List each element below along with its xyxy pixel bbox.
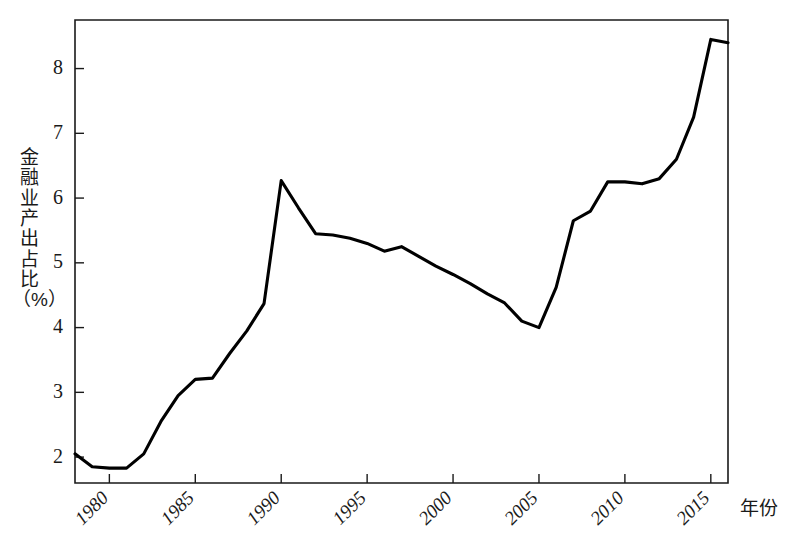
y-tick-label: 8 xyxy=(53,56,63,78)
x-tick-label: 2015 xyxy=(672,487,714,529)
axes-frame xyxy=(75,20,728,483)
plot-frame xyxy=(75,20,728,483)
x-tick-label: 1980 xyxy=(70,487,112,529)
x-tick-label: 1990 xyxy=(242,487,284,529)
data-line-series xyxy=(75,39,728,468)
chart-figure: 金融业产出占比（%） 2345678 198019851990199520002… xyxy=(0,0,786,558)
x-tick-label: 2005 xyxy=(500,487,542,529)
y-tick-label: 5 xyxy=(53,250,63,272)
y-tick-label: 6 xyxy=(53,186,63,208)
data-series-group xyxy=(75,39,728,468)
chart-canvas: 2345678 19801985199019952000200520102015… xyxy=(0,0,786,558)
y-axis-title: 金融业产出占比（%） xyxy=(12,148,46,311)
x-tick-label: 1985 xyxy=(156,487,198,529)
x-axis-title: 年份 xyxy=(740,498,778,519)
x-tick-label: 2010 xyxy=(586,487,628,529)
y-tick-label: 4 xyxy=(53,315,63,337)
x-tick-label: 1995 xyxy=(328,487,370,529)
y-axis-ticks: 2345678 xyxy=(53,56,84,467)
y-tick-label: 2 xyxy=(53,445,63,467)
x-tick-label: 2000 xyxy=(414,487,456,529)
y-tick-label: 3 xyxy=(53,380,63,402)
y-tick-label: 7 xyxy=(53,121,63,143)
